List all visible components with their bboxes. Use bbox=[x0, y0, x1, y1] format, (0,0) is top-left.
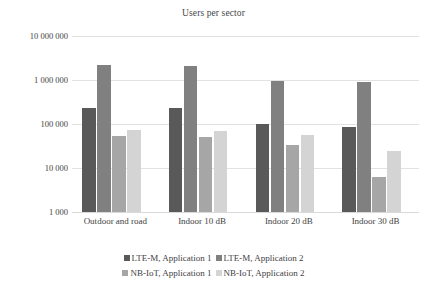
bar[interactable] bbox=[387, 151, 401, 212]
bar[interactable] bbox=[301, 135, 315, 212]
bar[interactable] bbox=[372, 177, 386, 212]
x-axis-line bbox=[72, 212, 419, 213]
bar-group bbox=[159, 36, 246, 212]
x-axis-tick-label: Outdoor and road bbox=[72, 216, 159, 226]
bar-group bbox=[72, 36, 159, 212]
x-axis-tick-label: Indoor 10 dB bbox=[159, 216, 246, 226]
chart-legend: LTE-M, Application 1LTE-M, Application 2… bbox=[0, 250, 427, 280]
x-axis-tick-label: Indoor 30 dB bbox=[332, 216, 419, 226]
y-axis-tick-label: 10 000 bbox=[2, 163, 68, 173]
bar[interactable] bbox=[184, 66, 198, 212]
legend-row: LTE-M, Application 1LTE-M, Application 2 bbox=[0, 250, 427, 265]
legend-item[interactable]: NB-IoT, Application 2 bbox=[216, 268, 305, 278]
bar[interactable] bbox=[82, 108, 96, 212]
plot-area bbox=[72, 36, 419, 212]
legend-swatch-icon bbox=[122, 270, 128, 276]
bar[interactable] bbox=[112, 136, 126, 212]
bar[interactable] bbox=[286, 145, 300, 212]
legend-item[interactable]: NB-IoT, Application 1 bbox=[122, 268, 211, 278]
legend-item[interactable]: LTE-M, Application 1 bbox=[124, 253, 212, 263]
bar[interactable] bbox=[271, 81, 285, 212]
legend-swatch-icon bbox=[216, 255, 222, 261]
bar[interactable] bbox=[256, 124, 270, 212]
legend-item[interactable]: LTE-M, Application 2 bbox=[216, 253, 304, 263]
legend-swatch-icon bbox=[124, 255, 130, 261]
bar[interactable] bbox=[127, 130, 141, 212]
bar[interactable] bbox=[199, 137, 213, 213]
bar-group bbox=[332, 36, 419, 212]
legend-swatch-icon bbox=[216, 270, 222, 276]
bar[interactable] bbox=[169, 108, 183, 212]
legend-label: NB-IoT, Application 2 bbox=[224, 268, 305, 278]
chart-container: Users per sector 1 00010 000100 0001 000… bbox=[0, 0, 427, 293]
legend-label: NB-IoT, Application 1 bbox=[130, 268, 211, 278]
x-axis-tick-label: Indoor 20 dB bbox=[246, 216, 333, 226]
x-axis-category-labels: Outdoor and roadIndoor 10 dBIndoor 20 dB… bbox=[72, 216, 419, 232]
bar[interactable] bbox=[342, 127, 356, 212]
y-axis-tick-label: 1 000 000 bbox=[2, 75, 68, 85]
legend-label: LTE-M, Application 1 bbox=[132, 253, 212, 263]
bar[interactable] bbox=[214, 131, 228, 212]
y-axis-tick-label: 1 000 bbox=[2, 207, 68, 217]
bar-group bbox=[246, 36, 333, 212]
y-axis-tick-label: 10 000 000 bbox=[2, 31, 68, 41]
bar[interactable] bbox=[97, 65, 111, 212]
bar[interactable] bbox=[357, 82, 371, 212]
y-axis-tick-label: 100 000 bbox=[2, 119, 68, 129]
legend-row: NB-IoT, Application 1NB-IoT, Application… bbox=[0, 265, 427, 280]
legend-label: LTE-M, Application 2 bbox=[224, 253, 304, 263]
